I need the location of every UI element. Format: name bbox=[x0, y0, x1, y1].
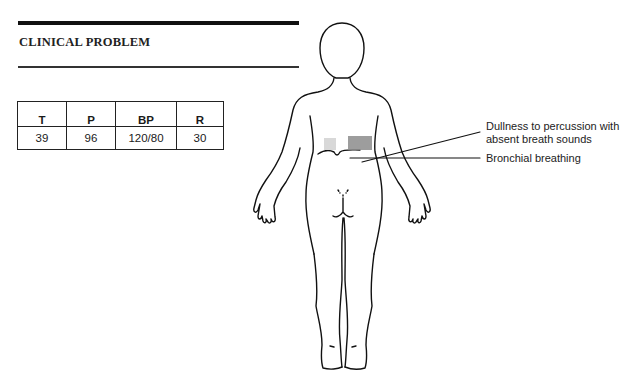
body-outline-figure bbox=[0, 0, 623, 382]
left-body-outline bbox=[254, 78, 334, 223]
right-leg-outline bbox=[345, 254, 374, 369]
dullness-shaded-area bbox=[348, 136, 372, 150]
gluteal-cleft bbox=[333, 198, 353, 217]
ankle-marks bbox=[330, 346, 356, 347]
light-shaded-area bbox=[324, 138, 336, 150]
head-outline bbox=[320, 23, 364, 78]
annotation-bronchial: Bronchial breathing bbox=[486, 152, 581, 165]
left-inner-torso-line bbox=[306, 116, 314, 254]
annotation-dullness-line2: absent breath sounds bbox=[486, 133, 619, 146]
inner-leg-line bbox=[339, 218, 347, 367]
right-inner-torso-line bbox=[374, 116, 382, 254]
sacral-dots bbox=[338, 190, 348, 196]
annotation-bronchial-line1: Bronchial breathing bbox=[486, 152, 581, 165]
left-leg-outline bbox=[314, 254, 342, 369]
annotation-dullness: Dullness to percussion with absent breat… bbox=[486, 120, 619, 146]
annotation-dullness-line1: Dullness to percussion with bbox=[486, 120, 619, 133]
right-body-outline bbox=[350, 78, 430, 223]
waist-line bbox=[318, 150, 360, 155]
